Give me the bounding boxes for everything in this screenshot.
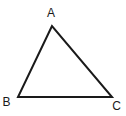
triangle-abc [18,26,112,97]
triangle-diagram: A B C [0,0,126,116]
vertex-label-b: B [2,95,10,109]
vertex-label-a: A [47,6,55,20]
vertex-label-c: C [112,99,121,113]
